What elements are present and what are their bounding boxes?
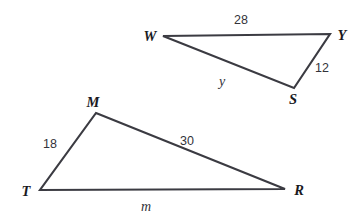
vertex-label-w: W (144, 28, 158, 44)
vertex-label-t: T (22, 183, 32, 199)
vertex-label-y: Y (338, 27, 348, 43)
side-label-sw: y (217, 74, 226, 89)
triangle-mtr-outline (40, 113, 285, 190)
geometry-figure: W Y S 28 12 y M T R 18 30 m (0, 0, 361, 224)
side-label-wy: 28 (234, 13, 248, 27)
vertex-label-m: M (86, 94, 101, 110)
triangle-wys-outline (163, 34, 330, 88)
side-label-tm: 18 (43, 137, 57, 151)
vertex-label-s: S (289, 91, 297, 107)
triangle-wys (163, 34, 330, 88)
side-label-mr: 30 (180, 134, 194, 148)
vertex-label-r: R (293, 182, 304, 198)
side-label-ys: 12 (315, 61, 329, 75)
side-label-tr: m (141, 199, 151, 214)
triangle-mtr (40, 113, 285, 190)
